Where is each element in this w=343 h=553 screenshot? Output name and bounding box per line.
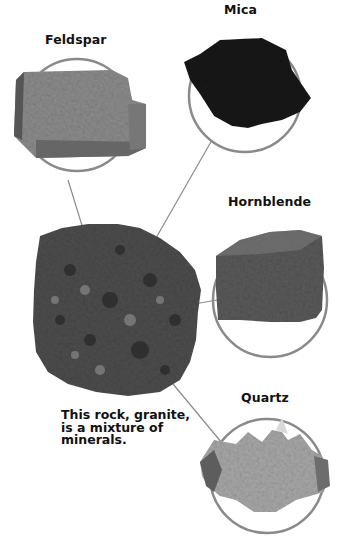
caption: This rock, granite, is a mixture of mine… — [61, 409, 190, 447]
quartz-callout — [200, 418, 330, 533]
mineral-label-quartz: Quartz — [241, 390, 289, 405]
caption-line-3: minerals. — [61, 434, 190, 447]
mineral-label-mica: Mica — [224, 2, 257, 17]
feldspar-callout — [14, 59, 146, 171]
hornblende-callout — [213, 230, 327, 357]
diagram-canvas — [0, 0, 343, 553]
mica-callout — [184, 38, 311, 152]
granite-rock-image — [33, 224, 201, 396]
leader-line-mica — [148, 140, 212, 252]
mineral-label-hornblende: Hornblende — [228, 194, 311, 209]
mineral-label-feldspar: Feldspar — [45, 32, 107, 47]
